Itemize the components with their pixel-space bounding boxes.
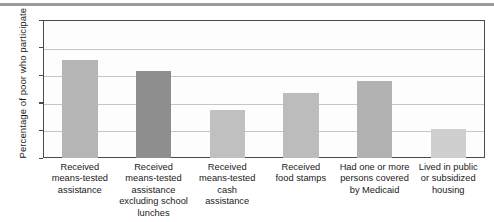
x-axis-label-line: Had one or more [339,162,411,173]
x-axis-category-label: Had one or morepersons coveredby Medicai… [338,162,412,219]
x-axis-category-label: Receivedmeans-testedassistance [43,162,117,219]
x-axis-label-line: food stamps [265,173,337,184]
x-axis-label-line: means-tested [44,173,116,184]
bar-slot [338,20,412,158]
top-rule-divider [0,3,494,6]
x-axis-category-label: Receivedfood stamps [264,162,338,219]
x-axis-category-label: Receivedmeans-testedassistanceexcluding … [117,162,191,219]
bar-chart-figure: Percentage of poor who participate 02040… [0,0,494,222]
x-axis-category-labels: Receivedmeans-testedassistanceReceivedme… [43,162,485,219]
x-axis-category-label: Receivedmeans-testedcashassistance [190,162,264,219]
x-axis-label-line: cash [191,185,263,196]
x-axis-label-line: means-tested [118,173,190,184]
bar [62,60,97,158]
x-axis-category-label: Lived in publicor subsidizedhousing [411,162,485,219]
x-axis-label-line: assistance [191,196,263,207]
x-axis-label-line: housing [412,185,484,196]
bar-slot [43,20,117,158]
x-axis-label-line: assistance [44,185,116,196]
bar-slot [117,20,191,158]
x-axis-label-line: assistance [118,185,190,196]
x-axis-label-line: means-tested [191,173,263,184]
x-axis-label-line: Received [191,162,263,173]
x-axis-label-line: or subsidized [412,173,484,184]
bar-slot [411,20,485,158]
x-axis-label-line: persons covered [339,173,411,184]
x-axis-label-line: Lived in public [412,162,484,173]
bar [210,110,245,158]
x-axis-label-line: by Medicaid [339,185,411,196]
bar-slot [264,20,338,158]
x-axis-label-line: lunches [118,208,190,219]
bar-slot [190,20,264,158]
bar [357,81,392,158]
y-axis-title: Percentage of poor who participate [17,9,28,159]
x-axis-label-line: Received [118,162,190,173]
x-axis-label-line: Received [44,162,116,173]
x-axis-label-line: excluding school [118,196,190,207]
bar-series [43,20,485,158]
bar [431,129,466,158]
bar [136,71,171,158]
x-axis-label-line: Received [265,162,337,173]
bar [283,93,318,158]
